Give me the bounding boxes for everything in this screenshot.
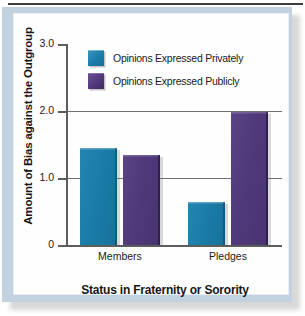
bar-members-publicly [123,155,160,245]
legend-swatch-icon [88,50,104,66]
y-axis-tick-label: 2.0 [20,104,54,116]
legend-label: Opinions Expressed Privately [113,52,243,64]
legend-swatch-icon [88,73,104,89]
y-axis-tick-label: 1.0 [20,171,54,183]
y-axis-tick-label: 3.0 [20,37,54,49]
bar-pledges-privately [188,202,225,245]
chart-figure: Amount of Bias against the Outgroup 01.0… [0,0,303,316]
x-axis-line [66,245,282,247]
bar-pledges-publicly [231,112,268,245]
legend-label: Opinions Expressed Publicly [113,75,239,87]
bar-members-privately [80,148,117,245]
y-axis-tick-labels: 01.02.03.0 [16,0,54,260]
chart-legend: Opinions Expressed PrivatelyOpinions Exp… [88,46,278,92]
x-axis-category-label: Members [70,250,170,262]
x-axis-category-label: Pledges [178,250,278,262]
y-axis-tick-label: 0 [20,238,54,250]
x-axis-title: Status in Fraternity or Sorority [40,283,290,297]
legend-item-publicly: Opinions Expressed Publicly [88,69,278,92]
legend-item-privately: Opinions Expressed Privately [88,46,278,69]
